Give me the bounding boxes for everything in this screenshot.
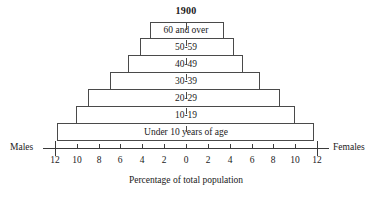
x-axis-tick-label: 10 (284, 155, 306, 165)
x-axis-tick-label: 6 (109, 155, 131, 165)
pyramid-row: 30-39 (0, 73, 372, 90)
x-axis-tick-label: 2 (153, 155, 175, 165)
age-band-bar (140, 38, 234, 56)
x-axis-tick-label: 2 (197, 155, 219, 165)
x-axis-tick (230, 144, 231, 149)
age-band-bar (110, 72, 261, 90)
x-axis-tick (99, 144, 100, 149)
x-axis-tick (208, 144, 209, 149)
chart-title: 1900 (0, 5, 372, 16)
pyramid-row: Under 10 years of age (0, 124, 372, 141)
pyramid-row: 60 and over (0, 22, 372, 39)
pyramid-bars: 60 and over50-5940-4930-3920-2910-19Unde… (0, 22, 372, 141)
x-axis-tick (252, 144, 253, 149)
x-axis-tick (120, 144, 121, 149)
x-axis-tick (77, 144, 78, 149)
age-band-bar (88, 89, 280, 107)
x-axis-tick-label: 12 (306, 155, 328, 165)
x-axis-tick (142, 144, 143, 149)
x-axis-caption: Percentage of total population (0, 175, 372, 185)
x-axis-tick (317, 141, 318, 156)
x-axis-tick (273, 144, 274, 149)
pyramid-row: 10-19 (0, 107, 372, 124)
x-axis-tick (295, 144, 296, 149)
population-pyramid-chart: 1900 60 and over50-5940-4930-3920-2910-1… (0, 0, 372, 201)
males-axis-label: Males (10, 142, 33, 152)
x-axis-tick-label: 4 (131, 155, 153, 165)
females-axis-label: Females (333, 142, 365, 152)
age-band-bar (128, 55, 243, 73)
x-axis-tick-label: 8 (262, 155, 284, 165)
pyramid-row: 50-59 (0, 39, 372, 56)
x-axis-tick-label: 0 (175, 155, 197, 165)
x-axis-tick (164, 144, 165, 149)
x-axis-tick-label: 10 (66, 155, 88, 165)
x-axis-tick (186, 144, 187, 149)
x-axis-tick-label: 4 (219, 155, 241, 165)
pyramid-row: 40-49 (0, 56, 372, 73)
x-axis-tick-label: 6 (241, 155, 263, 165)
age-band-bar (57, 123, 314, 141)
pyramid-row: 20-29 (0, 90, 372, 107)
age-band-bar (150, 22, 224, 39)
x-axis-tick-label: 12 (44, 155, 66, 165)
x-axis-tick (55, 141, 56, 156)
age-band-bar (76, 106, 295, 124)
x-axis-tick-label: 8 (88, 155, 110, 165)
